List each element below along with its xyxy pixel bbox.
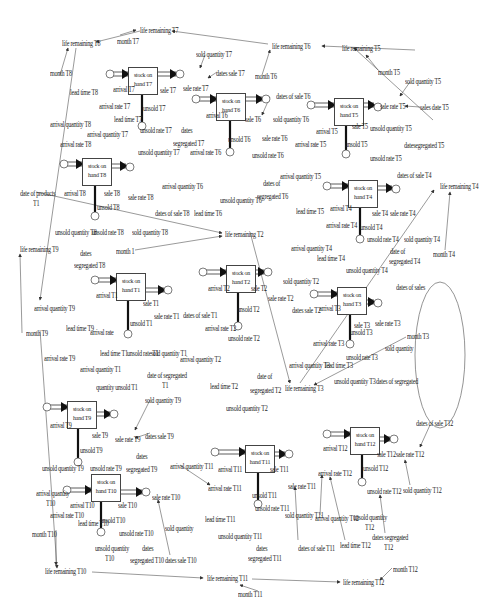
variable-label: sale T5 <box>352 123 368 131</box>
variable-label: life remaining T7 <box>140 27 178 35</box>
variable-label: sale rate T11 <box>288 483 316 491</box>
variable-label: dates sale T7 <box>216 70 244 78</box>
stock-label-line2: hand T1 <box>119 286 143 295</box>
variable-label: dates <box>80 250 91 258</box>
variable-label: arrival T9 <box>50 422 72 430</box>
variable-label: sold quantity T7 <box>196 51 232 59</box>
variable-label: sold quantity T2 <box>283 278 319 286</box>
variable-label: T1 <box>162 382 168 390</box>
variable-label: arrival rate T11 <box>208 485 242 493</box>
variable-label: dates segregated <box>372 534 408 542</box>
stock-label-line1: stock on <box>94 478 118 487</box>
variable-label: date of <box>390 248 405 256</box>
variable-label: life remaining T6 <box>272 43 310 51</box>
variable-label: sale T6 <box>245 116 261 124</box>
variable-label: sale rate T9 <box>115 436 140 444</box>
variable-label: arrival quantity T6 <box>162 183 203 191</box>
variable-label: sold quantity T5 <box>405 78 441 86</box>
variable-label: lead time T1 <box>100 350 128 358</box>
variable-label: sale rate T8 <box>128 194 153 202</box>
variable-label: sale rate T4 <box>390 210 415 218</box>
variable-label: unsold rate T7 <box>140 127 172 135</box>
stock-box-t1: stock onhand T1 <box>116 273 146 301</box>
variable-label: arrival T10 <box>70 502 94 510</box>
variable-label: unsold T9 <box>80 447 102 455</box>
variable-label: unsold rate T12 <box>367 488 401 496</box>
variable-label: arrival T8 <box>64 190 86 198</box>
variable-label: arrival rate <box>90 329 114 337</box>
variable-label: arrival quantity T4 <box>291 245 332 253</box>
variable-label: sale T4 <box>372 210 388 218</box>
variable-label: unsold T4 <box>360 224 382 232</box>
variable-label: dates of sale T12 <box>416 420 453 428</box>
variable-label: life remaining T5 <box>342 45 380 53</box>
stock-label-line2: hand T2 <box>229 278 253 287</box>
variable-label: date of products <box>20 190 55 198</box>
variable-label: arrival T3 <box>319 305 341 313</box>
variable-label: sale T10 <box>118 502 137 510</box>
variable-label: segregated T4 <box>389 258 420 266</box>
variable-label: dates of segregated <box>376 378 418 386</box>
variable-label: quantity unsold T1 <box>96 384 137 392</box>
variable-label: unsold T6 <box>228 136 250 144</box>
variable-label: sold quantity T6 <box>273 116 309 124</box>
variable-label: arrival rate T6 <box>190 149 221 157</box>
variable-label: life remaining T8 <box>62 40 100 48</box>
variable-label: T12 <box>384 544 393 552</box>
variable-label: sale T7 <box>160 87 176 95</box>
stock-label-line1: stock on <box>119 277 143 286</box>
variable-label: sold quantity T4 <box>404 236 440 244</box>
variable-label: arrival T11 <box>218 466 242 474</box>
stock-label-line2: hand T4 <box>351 193 375 202</box>
stock-box-t5: stock onhand T5 <box>334 98 364 126</box>
variable-label: arrival quantity T1 <box>80 366 121 374</box>
variable-label: month T7 <box>117 38 139 46</box>
variable-label: segregated T2 <box>250 387 281 395</box>
stock-label-line2: hand T9 <box>70 414 94 423</box>
variable-label: arrival rate T5 <box>295 141 326 149</box>
variable-label: month 1 <box>116 248 134 256</box>
variable-label: arrival T12 <box>323 445 347 453</box>
variable-label: unsold quantity T6 <box>220 197 261 205</box>
variable-label: dates of sales <box>396 284 425 292</box>
variable-label: unsold quantity T11 <box>218 533 262 541</box>
stock-label-line1: stock on <box>70 405 94 414</box>
variable-label: sale T9 <box>92 432 108 440</box>
stock-flow-diagram: stock onhand T7stock onhand T6stock onha… <box>0 0 485 611</box>
variable-label: arrival quantity T7 <box>87 131 128 139</box>
stock-label-line2: hand T12 <box>353 440 377 449</box>
variable-label: datesegregated T5 <box>404 142 444 150</box>
stock-box-t4: stock onhand T4 <box>348 180 378 208</box>
stock-label-line1: stock on <box>351 184 375 193</box>
stock-label-line1: stock on <box>337 102 361 111</box>
variable-label: month T10 <box>32 531 57 539</box>
variable-label: arrival quantity T8 <box>50 121 91 129</box>
variable-label: month T12 <box>393 566 418 574</box>
stock-box-t12: stock onhand T12 <box>350 427 380 455</box>
variable-label: sale T2 <box>251 285 267 293</box>
variable-label: unsold quantity T5 <box>370 125 411 133</box>
stock-label-line1: stock on <box>219 97 243 106</box>
variable-label: arrival rate T7 <box>99 103 130 111</box>
variable-label: sale rate T3 <box>375 320 400 328</box>
variable-label: arrival rate T9 <box>44 355 75 363</box>
stock-label-line2: hand T3 <box>340 300 364 309</box>
variable-label: dates of sale T4 <box>397 172 431 180</box>
variable-label: dates sale T9 <box>145 433 173 441</box>
stock-box-t10: stock onhand T10 <box>91 474 121 502</box>
variable-label: arrival rate T4 <box>326 222 357 230</box>
variable-label: unsold T1 <box>130 320 152 328</box>
variable-label: unsold T11 <box>252 492 277 500</box>
variable-label: sale rate T5 <box>380 103 405 111</box>
variable-label: lead time T6 <box>194 210 222 218</box>
variable-label: dates of sale T6 <box>276 93 310 101</box>
variable-label: sale rate T6 <box>262 135 287 143</box>
variable-label: arrival rate T12 <box>318 470 352 478</box>
variable-label: unsold rate T5 <box>370 155 402 163</box>
stock-label-line2: hand T11 <box>248 458 272 467</box>
variable-label: arrival T5 <box>316 128 338 136</box>
variable-label: arrival rate T10 <box>50 512 84 520</box>
stock-label-line2: hand T5 <box>337 111 361 120</box>
variable-label: unsold T10 <box>100 517 125 525</box>
variable-label: life remaining T2 <box>225 231 263 239</box>
